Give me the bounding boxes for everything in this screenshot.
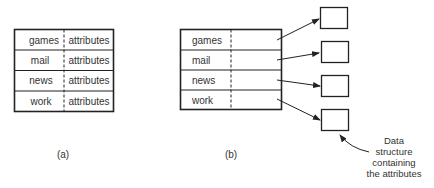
annotation-line: Data [384,135,405,146]
caption-b: (b) [225,149,237,160]
table-b-key: mail [192,55,210,66]
table-a-key: work [29,96,52,107]
table-b: games mail news work [181,30,282,110]
table-a-value: attributes [68,55,109,66]
table-a: games attributes mail attributes news at… [15,30,114,112]
attribute-structure-box [322,76,349,97]
attribute-structure-box [322,110,349,131]
table-a-key: mail [31,55,49,66]
table-b-key: games [192,35,222,46]
caption-a: (a) [57,149,69,160]
annotation-line: structure [376,146,413,157]
attribute-structure-box [322,42,349,63]
table-a-value: attributes [68,96,109,107]
annotation-line: containing [372,157,415,168]
table-b-key: work [191,95,214,106]
table-a-value: attributes [68,75,109,86]
annotation-arrow [340,135,369,152]
pointer-arrow [277,99,320,120]
table-b-key: news [192,75,215,86]
pointer-arrow [277,80,320,86]
pointer-arrow [277,19,319,40]
pointer-arrow [277,53,319,60]
diagram-canvas: games attributes mail attributes news at… [0,0,434,188]
table-a-key: news [29,75,52,86]
table-a-key: games [29,35,59,46]
attribute-structure-box [321,8,348,29]
table-a-value: attributes [68,35,109,46]
annotation-line: the attributes [367,168,422,179]
